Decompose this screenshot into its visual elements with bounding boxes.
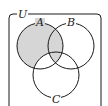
venn-diagram: U A B C	[0, 0, 108, 106]
label-a: A	[35, 16, 44, 29]
label-c: C	[52, 93, 61, 106]
shaded-region	[0, 0, 108, 106]
label-b: B	[66, 16, 75, 29]
